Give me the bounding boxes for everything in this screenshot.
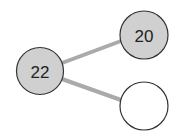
node-child-top-label: 20 (135, 27, 154, 46)
node-root-label: 22 (31, 63, 50, 82)
node-child-bottom (120, 82, 168, 130)
edge-root-to-bottom (62, 79, 121, 100)
tree-diagram: 22 20 (0, 0, 175, 135)
edge-root-to-top (62, 41, 121, 63)
node-child-top: 20 (120, 11, 168, 59)
node-root: 22 (17, 48, 64, 95)
